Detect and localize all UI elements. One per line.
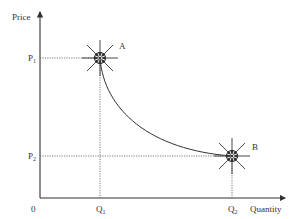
equilibrium-point-a xyxy=(82,40,118,76)
p1-label: P1 xyxy=(28,53,36,64)
equilibrium-point-b xyxy=(214,138,250,174)
x-axis-label: Quantity xyxy=(250,204,282,214)
q2-label: Q2 xyxy=(228,204,238,215)
adjustment-curve xyxy=(100,58,232,156)
q1-label: Q1 xyxy=(96,204,106,215)
origin-label: 0 xyxy=(31,204,36,214)
point-b-label: B xyxy=(252,142,258,152)
p2-label: P2 xyxy=(28,151,36,162)
point-a-label: A xyxy=(119,41,126,51)
diagram-canvas: Price Quantity 0 P1 P2 Q1 Q2 A B xyxy=(0,0,301,219)
y-axis-label: Price xyxy=(12,12,31,22)
